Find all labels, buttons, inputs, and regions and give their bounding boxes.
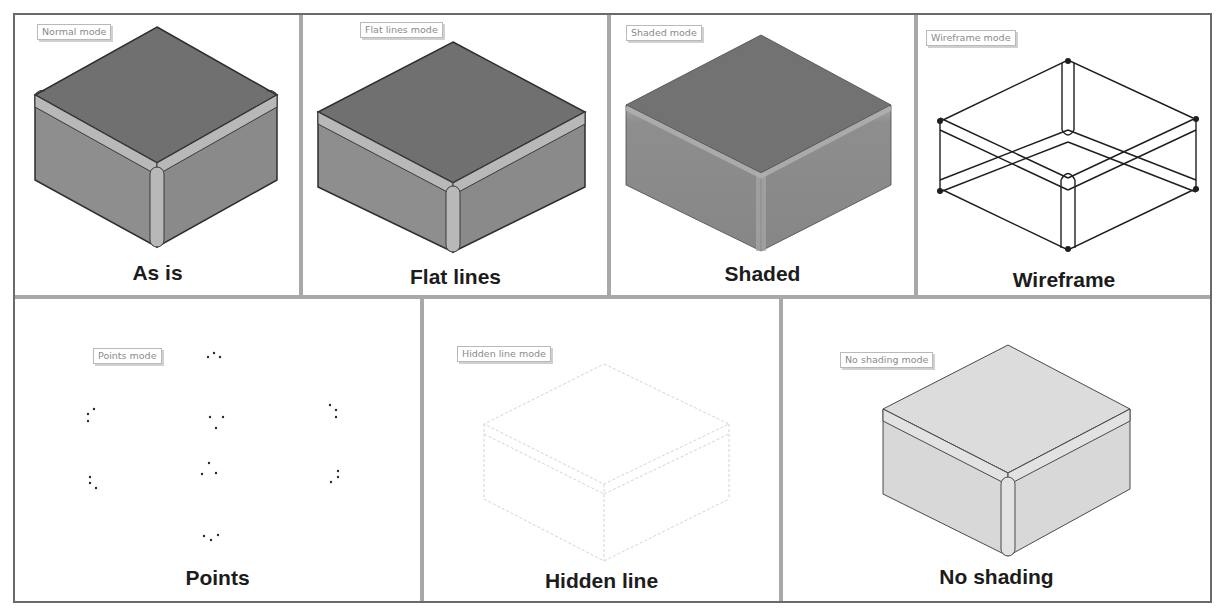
caption: Shaded	[611, 262, 914, 286]
caption: No shading	[783, 565, 1210, 589]
caption: Flat lines	[303, 265, 608, 289]
panel-no-shading: No shading mode No shading	[783, 299, 1210, 601]
panel-hidden-line: Hidden line mode Hidden line	[424, 299, 779, 601]
panel-wireframe: Wireframe mode	[918, 15, 1210, 295]
panel-shaded: Shaded mode Shaded	[611, 15, 914, 295]
panel-as-is: Normal mode As is	[15, 15, 300, 295]
caption: Wireframe	[918, 268, 1210, 292]
caption: Hidden line	[424, 569, 779, 593]
caption: As is	[15, 261, 300, 285]
panel-points: Points mode Points	[15, 299, 420, 601]
box-no-shading	[783, 299, 1210, 579]
box-hidden-line	[424, 299, 779, 579]
caption: Points	[15, 566, 420, 590]
box-wireframe	[918, 15, 1210, 275]
box-shaded	[611, 15, 914, 275]
box-flat-with-edges	[303, 15, 608, 275]
panel-flat-lines: Flat lines mode Flat lines	[303, 15, 608, 295]
box-shaded-with-edges	[15, 15, 300, 275]
vertex-points	[15, 299, 420, 559]
